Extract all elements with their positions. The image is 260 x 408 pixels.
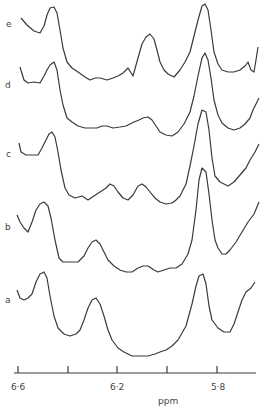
trace-label-b: b <box>5 222 11 232</box>
trace-label-e: e <box>6 19 12 29</box>
x-tick-label-6.2: 6·2 <box>110 382 124 392</box>
x-axis-label: ppm <box>158 396 178 406</box>
x-tick-label-6.6: 6·6 <box>11 382 26 392</box>
trace-label-c: c <box>6 149 11 159</box>
x-tick-label-5.8: 5·8 <box>211 382 226 392</box>
trace-a <box>17 272 255 356</box>
nmr-spectra-chart: 6·6 6·2 5·8 ppm e d c b a <box>0 0 260 408</box>
trace-d <box>20 53 259 136</box>
trace-label-d: d <box>5 80 11 90</box>
trace-label-a: a <box>5 295 11 305</box>
